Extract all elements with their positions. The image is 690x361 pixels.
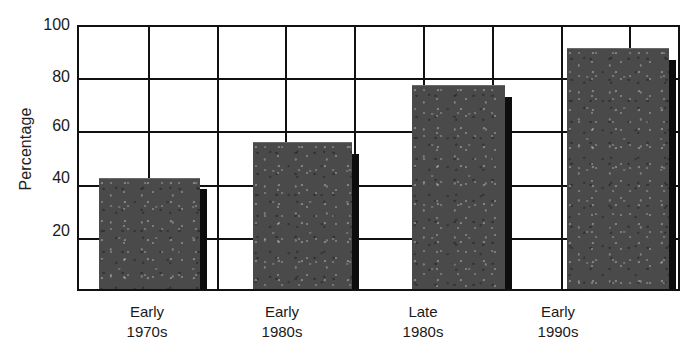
bar-shadow-early-1990s [669, 60, 676, 289]
x-category-line2-early-1990s: 1990s [508, 322, 608, 342]
plot-area [77, 25, 680, 291]
x-category-label-late-1980s: Late 1980s [373, 302, 473, 342]
bar-body-early-1970s [99, 178, 200, 289]
gridline-x-2 [217, 27, 219, 289]
y-axis-tick-labels: 100 80 60 40 20 [26, 0, 70, 361]
y-tick-label-20: 20 [30, 223, 70, 239]
x-category-line2-late-1980s: 1980s [373, 322, 473, 342]
bar-body-early-1990s [567, 48, 669, 289]
gridline-x-7 [561, 27, 563, 289]
x-category-line1-early-1990s: Early [508, 302, 608, 322]
x-category-label-early-1980s: Early 1980s [232, 302, 332, 342]
bar-body-late-1980s [412, 85, 505, 289]
x-category-label-early-1970s: Early 1970s [97, 302, 197, 342]
bar-shadow-early-1980s [352, 154, 359, 289]
x-category-line1-early-1970s: Early [97, 302, 197, 322]
x-category-line2-early-1980s: 1980s [232, 322, 332, 342]
bar-shadow-early-1970s [200, 189, 207, 289]
y-tick-label-100: 100 [30, 17, 70, 33]
x-category-line2-early-1970s: 1970s [97, 322, 197, 342]
x-category-line1-late-1980s: Late [373, 302, 473, 322]
x-category-line1-early-1980s: Early [232, 302, 332, 322]
y-tick-label-40: 40 [30, 170, 70, 186]
y-tick-label-60: 60 [30, 118, 70, 134]
bar-shadow-late-1980s [505, 97, 512, 289]
y-tick-label-80: 80 [30, 69, 70, 85]
bar-body-early-1980s [253, 142, 352, 289]
x-category-label-early-1990s: Early 1990s [508, 302, 608, 342]
bar-chart-figure: Percentage 100 80 60 40 20 [0, 0, 690, 361]
